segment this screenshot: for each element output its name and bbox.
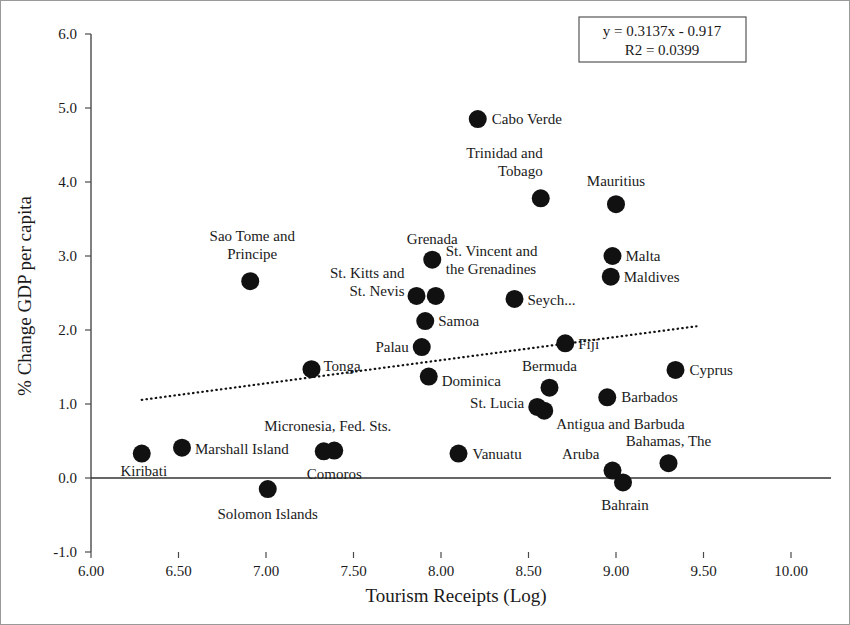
x-tick-label: 9.00	[603, 563, 629, 579]
x-tick-label: 6.50	[165, 563, 191, 579]
data-point-label-line: Trinidad and	[466, 145, 543, 161]
data-point-marker	[660, 454, 678, 472]
data-point-label: Maldives	[624, 269, 680, 285]
data-point: Dominica	[420, 368, 501, 389]
data-point-label: Palau	[375, 339, 409, 355]
data-point-label: Bahrain	[601, 497, 649, 513]
data-point-label: Fiji	[578, 336, 599, 352]
data-point-label-line: Comoros	[307, 466, 362, 482]
data-point-marker	[325, 442, 343, 460]
x-tick-label: 7.00	[253, 563, 279, 579]
y-tick-label: -1.0	[53, 544, 77, 560]
data-point-label-line: St. Nevis	[349, 283, 404, 299]
data-point: Maldives	[602, 268, 680, 286]
y-tick-label: 3.0	[58, 248, 77, 264]
data-point-label: Sao Tome andPrincipe	[210, 228, 296, 262]
data-point-marker	[532, 189, 550, 207]
data-point-label: Comoros	[307, 466, 362, 482]
data-point-label-line: Samoa	[438, 313, 479, 329]
data-point-label-line: Palau	[375, 339, 409, 355]
data-point-label-line: Maldives	[624, 269, 680, 285]
data-point-marker	[450, 445, 468, 463]
data-point-label: Bahamas, The	[626, 433, 712, 449]
data-point-marker	[604, 247, 622, 265]
chart-canvas: -1.00.01.02.03.04.05.06.0 6.006.507.007.…	[1, 1, 850, 625]
data-point-label: Dominica	[442, 373, 501, 389]
data-point: Fiji	[556, 334, 599, 352]
data-point: Mauritius	[587, 173, 645, 213]
data-point-marker	[598, 388, 616, 406]
data-point-marker	[469, 110, 487, 128]
data-point-label: Bermuda	[522, 358, 577, 374]
data-point-marker	[173, 439, 191, 457]
y-axis-title: % Change GDP per capita	[14, 196, 35, 396]
data-point-label-line: Cyprus	[690, 362, 734, 378]
data-point-label-line: Tonga	[324, 358, 362, 374]
data-point-label-line: Malta	[626, 248, 661, 264]
y-tick-label: 0.0	[58, 470, 77, 486]
data-point-label: Barbados	[621, 389, 678, 405]
y-tick-label: 1.0	[58, 396, 77, 412]
data-point-marker	[667, 361, 685, 379]
data-point-label-line: Marshall Island	[195, 441, 289, 457]
data-point-label: Aruba	[562, 446, 600, 462]
data-point: Trinidad andTobago	[466, 145, 550, 207]
data-point-label-line: Micronesia, Fed. Sts.	[264, 418, 391, 434]
data-point-marker	[413, 338, 431, 356]
data-points-layer: Cabo VerdeTrinidad andTobagoMauritiusMal…	[120, 110, 733, 522]
data-point: Barbados	[598, 388, 678, 406]
data-point: Bahrain	[601, 473, 649, 513]
data-point-label-line: Tobago	[498, 163, 543, 179]
data-point-label-line: Fiji	[578, 336, 599, 352]
data-point: Malta	[604, 247, 661, 265]
data-point-label: Seych...	[528, 292, 576, 308]
data-point: Solomon Islands	[218, 480, 319, 522]
scatter-plot-figure: -1.00.01.02.03.04.05.06.0 6.006.507.007.…	[0, 0, 850, 625]
x-tick-label: 6.00	[78, 563, 104, 579]
data-point-label-line: Bermuda	[522, 358, 577, 374]
x-tick-label: 10.00	[774, 563, 808, 579]
equation-box: y = 0.3137x - 0.917 R2 = 0.0399	[579, 17, 746, 62]
data-point-marker	[423, 251, 441, 269]
data-point-label-line: the Grenadines	[446, 261, 537, 277]
data-point-marker	[259, 480, 277, 498]
x-tick-label: 8.00	[428, 563, 454, 579]
data-point-label-line: Dominica	[442, 373, 501, 389]
y-tick-label: 4.0	[58, 174, 77, 190]
y-axis-ticks: -1.00.01.02.03.04.05.06.0	[53, 26, 91, 560]
data-point-marker	[607, 195, 625, 213]
data-point-label-line: St. Kitts and	[330, 265, 405, 281]
data-point: Cabo Verde	[469, 110, 562, 128]
data-point: Vanuatu	[450, 445, 523, 463]
data-point-label: St. Lucia	[470, 395, 524, 411]
x-axis-ticks: 6.006.507.007.508.008.509.009.5010.00	[78, 552, 808, 579]
data-point-label-line: Sao Tome and	[210, 228, 296, 244]
data-point-marker	[556, 334, 574, 352]
data-point: St. Lucia	[470, 395, 546, 416]
data-point-label: Solomon Islands	[218, 506, 319, 522]
data-point: Samoa	[416, 312, 479, 330]
data-point-marker	[241, 272, 259, 290]
y-tick-label: 5.0	[58, 100, 77, 116]
data-point-label-line: Principe	[227, 246, 277, 262]
data-point-label: Cabo Verde	[492, 111, 562, 127]
data-point-label: Mauritius	[587, 173, 645, 189]
data-point-marker	[614, 473, 632, 491]
data-point-label-line: Barbados	[621, 389, 678, 405]
data-point-marker	[416, 312, 434, 330]
data-point-label-line: Bahrain	[601, 497, 649, 513]
data-point-marker	[541, 379, 559, 397]
data-point: Tonga	[303, 358, 362, 378]
data-point-marker	[602, 268, 620, 286]
data-point: Cyprus	[667, 361, 734, 379]
data-point-marker	[303, 360, 321, 378]
data-point: Palau	[375, 338, 430, 356]
data-point-label-line: Solomon Islands	[218, 506, 319, 522]
data-point: Marshall Island	[173, 439, 289, 457]
x-tick-label: 9.50	[690, 563, 716, 579]
trendline	[142, 326, 697, 400]
data-point-label-line: Antigua and Barbuda	[556, 416, 685, 432]
data-point: Bermuda	[522, 358, 577, 397]
data-point-label-line: Kiribati	[120, 463, 167, 479]
y-tick-label: 2.0	[58, 322, 77, 338]
